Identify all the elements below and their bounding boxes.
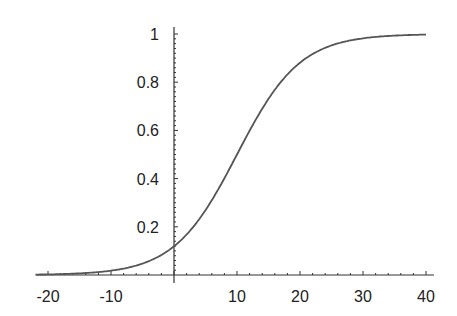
y-tick-label: 0.6 bbox=[137, 122, 159, 139]
logistic-curve-line bbox=[35, 35, 426, 275]
y-axis-tick-labels: 0.20.40.60.81 bbox=[137, 26, 159, 236]
x-tick-label: -10 bbox=[99, 288, 122, 305]
y-tick-label: 0.8 bbox=[137, 74, 159, 91]
x-tick-label: 40 bbox=[417, 288, 435, 305]
y-tick-label: 0.4 bbox=[137, 171, 159, 188]
y-tick-label: 0.2 bbox=[137, 219, 159, 236]
x-tick-label: 20 bbox=[291, 288, 309, 305]
x-axis: -20-1010203040 bbox=[36, 271, 435, 305]
y-axis: 0.20.40.60.81 bbox=[137, 26, 178, 283]
logistic-chart: -20-1010203040 0.20.40.60.81 bbox=[0, 0, 457, 316]
y-tick-label: 1 bbox=[150, 26, 159, 43]
x-tick-label: 30 bbox=[354, 288, 372, 305]
x-axis-tick-labels: -20-1010203040 bbox=[36, 288, 435, 305]
x-tick-label: -20 bbox=[36, 288, 59, 305]
x-tick-label: 10 bbox=[228, 288, 246, 305]
y-axis-minor-ticks bbox=[174, 34, 178, 270]
